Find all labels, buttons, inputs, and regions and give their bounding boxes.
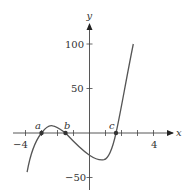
y-axis-label: y [86, 10, 93, 21]
y-tick-label-100: 100 [65, 39, 84, 50]
point-a [39, 131, 43, 135]
x-axis-label: x [176, 127, 182, 138]
point-label-a: a [35, 120, 41, 131]
x-tick-label-4: 4 [151, 139, 157, 150]
point-b [63, 131, 67, 135]
x-tick-label-neg4: −4 [13, 139, 28, 150]
cubic-curve [27, 44, 133, 172]
y-tick-label-50: 50 [71, 83, 84, 94]
cubic-function-graph: −4 4 100 50 −50 x y a b c [0, 0, 193, 191]
y-tick-label-neg50: −50 [65, 172, 86, 183]
point-c [114, 131, 118, 135]
point-label-c: c [109, 120, 115, 131]
point-label-b: b [64, 120, 70, 131]
